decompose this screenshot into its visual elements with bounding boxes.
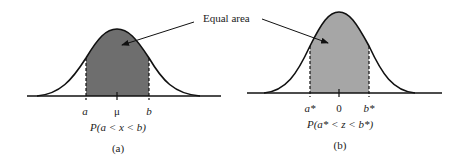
tick-label-a: a <box>82 105 88 117</box>
caption-a: (a) <box>112 142 125 155</box>
tick-label-b-star: b* <box>364 102 376 114</box>
tick-label-zero: 0 <box>336 102 342 114</box>
normal-distribution-diagram: a μ b P(a < x < b) (a) a* 0 b* P(a* < z … <box>0 0 464 161</box>
tick-label-a-star: a* <box>305 102 317 114</box>
tick-label-mu: μ <box>114 105 120 117</box>
caption-b: (b) <box>334 139 347 152</box>
probability-label-a: P(a < x < b) <box>89 121 146 134</box>
shaded-area-a <box>37 29 200 96</box>
shaded-area-b <box>264 12 415 93</box>
arrow-left-icon <box>122 22 194 45</box>
equal-area-label: Equal area <box>203 12 250 24</box>
panel-b: a* 0 b* P(a* < z < b*) (b) <box>247 12 442 152</box>
tick-label-b: b <box>146 105 152 117</box>
equal-area-annotation: Equal area <box>122 12 328 45</box>
probability-label-b: P(a* < z < b*) <box>306 118 374 131</box>
panel-a: a μ b P(a < x < b) (a) <box>27 29 221 155</box>
